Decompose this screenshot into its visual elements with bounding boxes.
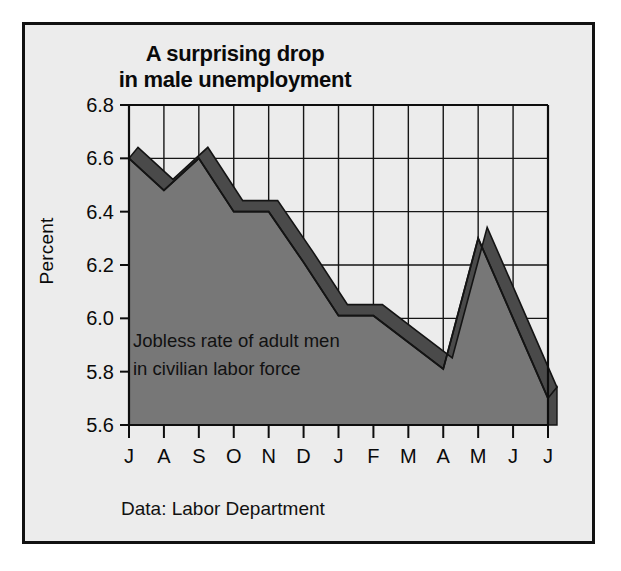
chart-plot-area: 5.65.86.06.26.46.66.8 JASONDJFMAMJJ Jobl…: [25, 25, 592, 541]
area-series: [129, 147, 557, 425]
y-tick-label: 6.2: [86, 254, 114, 276]
x-tick-label: J: [124, 445, 134, 467]
y-tick-label: 5.6: [86, 414, 114, 436]
chart-panel: A surprising drop in male unemployment P…: [22, 22, 595, 544]
x-tick-label: J: [334, 445, 344, 467]
x-tick-label: D: [296, 445, 310, 467]
source-note: Data: Labor Department: [121, 498, 326, 519]
x-tick-label: N: [261, 445, 275, 467]
y-tick-label: 6.0: [86, 307, 114, 329]
x-tick-label: A: [437, 445, 451, 467]
x-tick-label: M: [470, 445, 487, 467]
y-axis-ticks: 5.65.86.06.26.46.66.8: [86, 94, 129, 436]
y-tick-label: 6.6: [86, 147, 114, 169]
y-tick-label: 5.8: [86, 361, 114, 383]
x-tick-label: M: [400, 445, 417, 467]
chart-annotation-line-2: in civilian labor force: [133, 358, 301, 379]
y-tick-label: 6.4: [86, 201, 114, 223]
x-axis-ticks: JASONDJFMAMJJ: [124, 425, 553, 467]
x-tick-label: F: [367, 445, 379, 467]
chart-annotation-line-1: Jobless rate of adult men: [133, 330, 340, 351]
x-tick-label: J: [543, 445, 553, 467]
x-tick-label: S: [192, 445, 205, 467]
y-tick-label: 6.8: [86, 94, 114, 116]
x-tick-label: O: [226, 445, 242, 467]
x-tick-label: A: [157, 445, 171, 467]
x-tick-label: J: [508, 445, 518, 467]
